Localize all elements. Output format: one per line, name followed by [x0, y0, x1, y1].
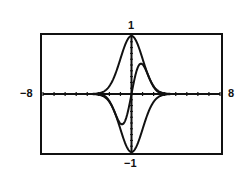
- x-max-label: 8: [228, 88, 234, 99]
- y-min-label: −1: [124, 158, 137, 169]
- graph-plot: [0, 0, 246, 177]
- y-max-label: 1: [128, 20, 134, 31]
- x-min-label: −8: [20, 88, 33, 99]
